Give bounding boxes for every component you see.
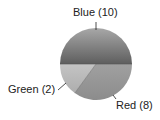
slice-label-red: Red (8) — [116, 100, 153, 111]
slice-label-blue: Blue (10) — [73, 7, 118, 18]
slice-label-green: Green (2) — [8, 84, 55, 95]
pie-slice-blue — [60, 28, 132, 64]
leader-line-green — [58, 83, 66, 90]
